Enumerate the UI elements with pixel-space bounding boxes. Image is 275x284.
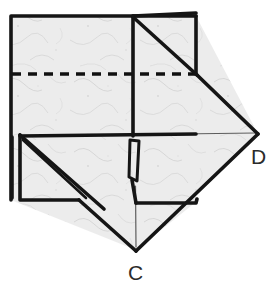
paper-folding-figure: D C: [0, 0, 275, 284]
origami-diagram-svg: [0, 0, 275, 284]
mid-horizontal-edge: [20, 134, 196, 136]
vertex-label-c: C: [128, 262, 143, 283]
lower-center-sheet-fill: [136, 135, 196, 250]
vertex-label-d: D: [251, 146, 266, 167]
